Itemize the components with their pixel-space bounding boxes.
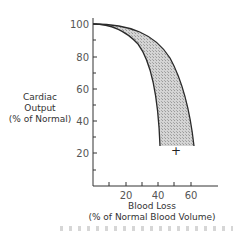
y-tick-label-40: 40 [76,116,89,127]
x-tick-label-40: 40 [152,190,165,201]
y-tick-label-100: 100 [70,19,89,30]
x-tick-label-60: 60 [185,190,198,201]
x-axis-title-line2: (% of Normal Blood Volume) [88,212,215,222]
y-axis-ticks [93,24,97,170]
y-tick-label-20: 20 [76,148,89,159]
x-tick-label-20: 20 [120,190,133,201]
chart-canvas: 100 80 60 40 20 20 40 60 Cardiac Output … [0,0,233,231]
cardiac-output-band [93,24,194,146]
y-axis-title-line1: Cardiac [23,92,57,102]
x-axis-title-line1: Blood Loss [128,201,176,211]
y-tick-label-80: 80 [76,52,89,63]
plus-marker-icon: + [171,144,181,158]
y-tick-label-60: 60 [76,84,89,95]
y-axis-title-line3: (% of Normal) [9,114,72,124]
y-axis-title-line2: Output [24,103,56,113]
cut-off-caption-text [60,226,233,231]
x-axis-ticks [109,182,191,186]
